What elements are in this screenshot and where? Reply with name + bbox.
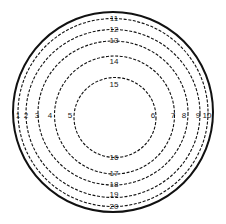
ring-label-18: 18 [110,180,119,189]
ring-label-12: 12 [110,25,119,34]
ring-label-5: 5 [68,111,73,120]
ring-label-2: 2 [24,111,29,120]
dashed-ring [18,19,208,207]
ring-label-11: 11 [110,14,119,23]
diagram-svg: 1234567891011121314151617181920 [0,0,226,224]
ring-label-9: 9 [196,111,201,120]
ring-label-1: 1 [16,111,21,120]
ring-label-14: 14 [110,57,119,66]
ring-label-4: 4 [48,111,53,120]
ring-label-13: 13 [110,36,119,45]
ring-label-8: 8 [182,111,187,120]
ring-label-6: 6 [151,111,156,120]
labels-layer: 1234567891011121314151617181920 [16,14,212,211]
ring-label-20: 20 [110,202,119,211]
ring-label-15: 15 [110,80,119,89]
ring-label-19: 19 [110,190,119,199]
ring-label-16: 16 [110,153,119,162]
concentric-ring-diagram: 1234567891011121314151617181920 [0,0,226,224]
ring-label-7: 7 [171,111,176,120]
ring-label-3: 3 [35,111,40,120]
ring-label-10: 10 [203,111,212,120]
dashed-ring [74,78,156,158]
ring-label-17: 17 [110,169,119,178]
